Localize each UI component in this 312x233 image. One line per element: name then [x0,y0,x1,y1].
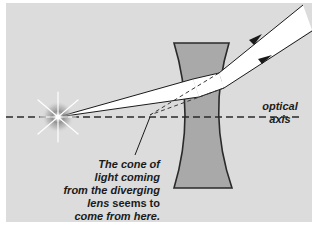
axis-label-line2: axis [250,113,310,126]
caption-line-2: light coming [20,171,160,184]
caption-line-3: from the diverging [20,184,160,197]
caption-lens-word: lens [87,197,109,209]
caption-line-4: lens seems to [20,197,160,210]
caption-line-1: The cone of [20,158,160,171]
light-core [56,115,61,120]
caption-line-5: come from here. [20,210,160,223]
optical-axis-label: optical axis [250,100,310,126]
caption-seems-to: seems to [109,197,160,209]
virtual-source-caption: The cone of light coming from the diverg… [20,158,160,223]
axis-label-line1: optical [250,100,310,113]
diagram-canvas: optical axis The cone of light coming fr… [0,0,312,233]
